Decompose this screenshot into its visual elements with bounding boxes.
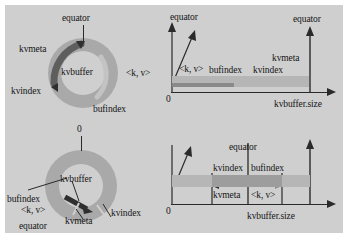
bottom-right-band-bufindex (248, 175, 282, 187)
x-axis-arrowhead-bottom (327, 200, 336, 208)
growth-arrowhead-bottom (184, 146, 192, 157)
bottom-right-band-left (172, 175, 212, 187)
bottom-right-axis-max-label: kvbuffer.size (247, 211, 295, 221)
bottom-right-band-right (282, 175, 310, 187)
bottom-right-kvindex-label: kvindex (213, 163, 243, 173)
bottom-right-bufindex-label: bufindex (251, 163, 284, 173)
axis-right-arrowhead-bottom (306, 139, 314, 149)
bottom-right-equator-label: equator (229, 142, 257, 152)
bottom-right-band-kvindex (212, 175, 248, 187)
bottom-right-axis-arrows (5, 5, 343, 233)
bottom-right-kvmeta-label: kvmeta (213, 190, 240, 200)
bottom-right-origin-label: 0 (166, 206, 171, 216)
bottom-right-kv-pair-label: <k, v> (251, 190, 275, 200)
figure-canvas: equator kvmeta kvindex kvbuffer <k, v> b… (5, 5, 343, 233)
